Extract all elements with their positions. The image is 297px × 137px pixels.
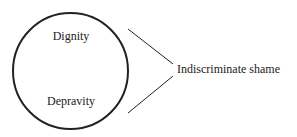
depravity-label: Depravity [47, 94, 95, 108]
diagram-canvas: Dignity Depravity Indiscriminate shame [0, 0, 297, 137]
lower-connector-line [128, 76, 173, 113]
indiscriminate-shame-label: Indiscriminate shame [177, 62, 280, 76]
upper-connector-line [128, 29, 173, 64]
dignity-label: Dignity [53, 29, 90, 43]
